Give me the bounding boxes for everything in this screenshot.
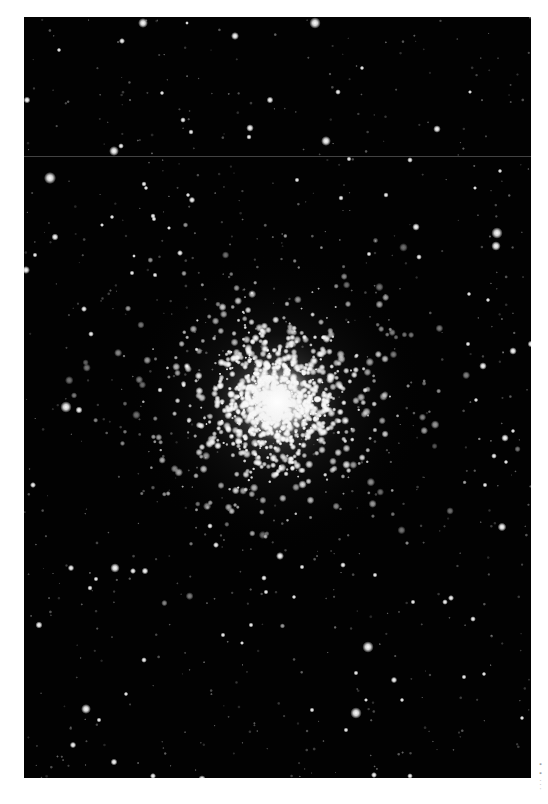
page: · · · ▪ ▪ <box>0 0 548 804</box>
edge-caption-text: · · · ▪ ▪ <box>535 690 547 790</box>
star-cluster-photo <box>24 17 531 778</box>
star-field-canvas <box>24 17 531 778</box>
scan-artifact-line <box>24 156 531 157</box>
